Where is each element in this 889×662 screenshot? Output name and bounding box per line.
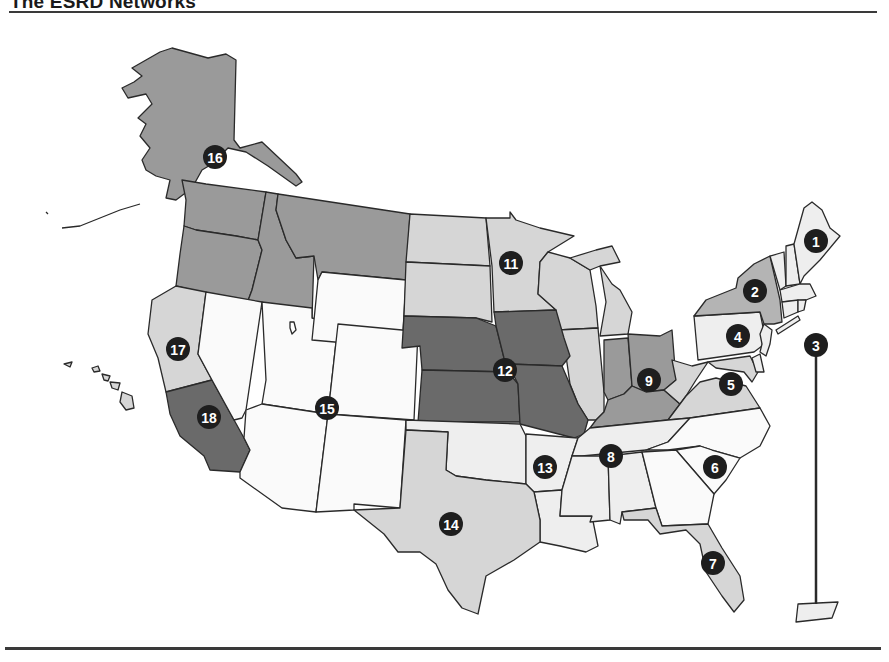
state-north-dakota [406,214,490,266]
network-badge-17[interactable]: 17 [166,337,190,361]
state-rhode-island [798,300,806,312]
state-new-jersey [760,324,772,356]
svg-text:15: 15 [319,401,335,417]
network-15-states[interactable] [198,272,418,512]
state-nebraska [402,316,508,372]
network-badge-18[interactable]: 18 [197,405,221,429]
state-south-dakota [404,262,492,322]
svg-text:6: 6 [711,460,719,476]
network-badge-4[interactable]: 4 [726,324,750,348]
state-iowa [494,310,570,366]
svg-text:11: 11 [504,256,519,272]
svg-text:18: 18 [201,410,217,426]
network-badge-16[interactable]: 16 [203,145,227,169]
svg-text:8: 8 [607,449,615,465]
network-badge-7[interactable]: 7 [701,551,725,575]
svg-text:9: 9 [645,373,653,389]
svg-text:13: 13 [537,460,553,476]
network-badge-15[interactable]: 15 [315,396,339,420]
state-alaska [122,48,302,200]
svg-text:1: 1 [812,234,820,250]
svg-text:4: 4 [734,329,742,345]
network-badge-13[interactable]: 13 [533,455,557,479]
network-badge-14[interactable]: 14 [439,512,463,536]
network-badge-8[interactable]: 8 [599,444,623,468]
svg-text:12: 12 [497,363,513,379]
network-badge-6[interactable]: 6 [703,455,727,479]
svg-text:2: 2 [751,284,759,300]
network-badge-1[interactable]: 1 [804,229,828,253]
svg-text:17: 17 [170,342,186,358]
aleutian-islands [46,204,140,228]
puerto-rico [796,602,838,622]
network-badge-3[interactable]: 3 [804,333,828,357]
network-badge-11[interactable]: 11 [499,251,523,275]
svg-text:5: 5 [727,377,735,393]
state-new-york[interactable] [694,256,782,324]
network-badge-12[interactable]: 12 [493,358,517,382]
us-esrd-networks-map: 1 2 3 4 5 6 7 8 9 11 12 13 14 15 16 17 1… [0,0,889,662]
network-badge-9[interactable]: 9 [637,368,661,392]
network-3-states[interactable] [760,324,838,622]
svg-text:14: 14 [443,517,459,533]
network-9-states[interactable] [590,330,680,428]
svg-text:3: 3 [812,338,820,354]
network-badge-2[interactable]: 2 [743,279,767,303]
svg-text:7: 7 [709,556,717,572]
bottom-divider [5,647,881,650]
state-arizona [240,404,328,512]
network-17-hawaii[interactable] [64,362,134,410]
state-connecticut [782,300,798,318]
svg-text:16: 16 [207,150,223,166]
network-badge-5[interactable]: 5 [719,372,743,396]
state-new-mexico [316,414,406,512]
